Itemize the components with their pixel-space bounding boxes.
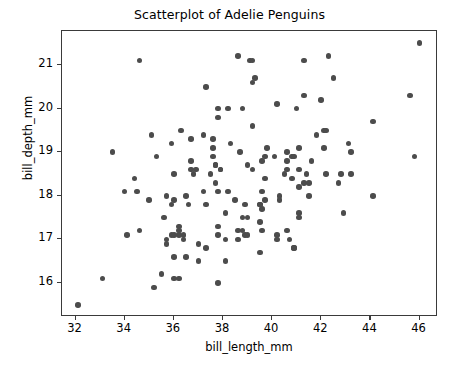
data-point [171,197,177,203]
data-point [274,237,280,243]
data-point [149,132,155,138]
data-point [210,154,216,160]
data-point [323,128,329,134]
data-point [203,84,209,90]
data-point [284,158,290,164]
data-point [169,141,175,147]
data-point [225,189,231,195]
data-point [137,58,143,64]
data-point [291,245,297,251]
x-tick-label: 38 [202,321,242,335]
data-point [215,232,221,238]
data-point [326,53,332,59]
data-point [232,197,238,203]
data-point [122,189,128,195]
data-point [178,128,184,134]
data-point [186,202,192,208]
data-point [272,154,278,160]
scatterplot-figure: Scatterplot of Adelie Penguins 323436384… [0,0,459,372]
data-point [274,101,280,107]
x-tick-label: 42 [300,321,340,335]
data-point [257,250,263,256]
y-tick-mark [57,64,61,65]
y-tick-label: 17 [11,230,53,244]
data-point [228,141,234,147]
data-point [284,228,290,234]
data-point [262,197,268,203]
scatter-points-layer [62,31,436,315]
data-point [250,123,256,129]
data-point [277,197,283,203]
data-point [218,167,224,173]
x-tick-mark [75,316,76,320]
data-point [146,197,152,203]
data-point [282,171,288,177]
data-point [75,302,81,308]
data-point [159,271,165,277]
data-point [331,75,337,81]
data-point [336,180,342,186]
data-point [215,280,221,286]
data-point [341,210,347,216]
data-point [259,206,265,212]
data-point [100,276,106,282]
data-point [287,237,293,243]
data-point [240,106,246,112]
x-axis-label: bill_length_mm [61,340,437,354]
data-point [215,106,221,112]
data-point [338,171,344,177]
data-point [259,228,265,234]
data-point [181,237,187,243]
data-point [412,154,418,160]
data-point [321,145,327,151]
x-tick-mark [124,316,125,320]
data-point [223,210,229,216]
x-tick-label: 32 [55,321,95,335]
data-point [252,75,258,81]
data-point [208,171,214,177]
data-point [215,115,221,121]
x-tick-mark [222,316,223,320]
data-point [262,154,268,160]
data-point [132,176,138,182]
x-tick-label: 46 [399,321,439,335]
data-point [188,136,194,142]
data-point [164,193,170,199]
x-tick-label: 40 [251,321,291,335]
data-point [348,149,354,155]
data-point [250,167,256,173]
data-point [301,93,307,99]
data-point [137,228,143,234]
data-point [348,171,354,177]
data-point [235,237,241,243]
data-point [318,97,324,103]
data-point [314,132,320,138]
data-point [210,136,216,142]
data-point [201,132,207,138]
y-tick-mark [57,238,61,239]
data-point [370,119,376,125]
data-point [259,189,265,195]
data-point [257,219,263,225]
data-point [225,106,231,112]
x-tick-mark [173,316,174,320]
data-point [323,171,329,177]
chart-title: Scatterplot of Adelie Penguins [0,7,459,22]
data-point [223,237,229,243]
y-tick-mark [57,282,61,283]
x-tick-label: 44 [349,321,389,335]
data-point [164,241,170,247]
data-point [306,193,312,199]
data-point [196,258,202,264]
data-point [370,193,376,199]
x-tick-mark [369,316,370,320]
data-point [210,145,216,151]
data-point [154,154,160,160]
data-point [309,158,315,164]
data-point [296,210,302,216]
data-point [346,141,352,147]
data-point [203,202,209,208]
data-point [213,180,219,186]
data-point [171,171,177,177]
data-point [201,189,207,195]
